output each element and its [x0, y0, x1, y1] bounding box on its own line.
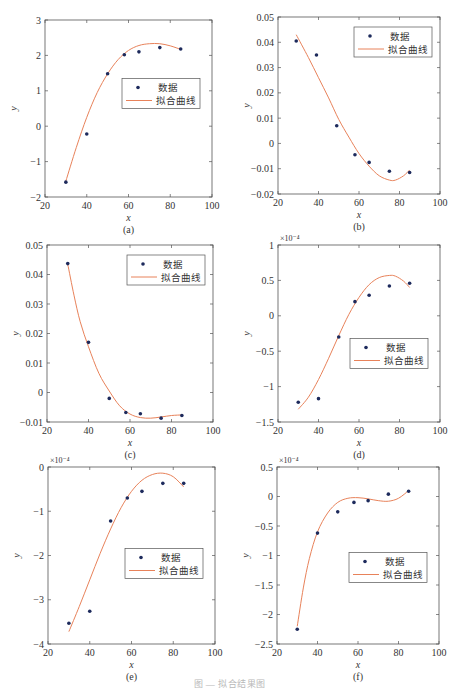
data-point	[161, 482, 165, 486]
x-tick-label: 40	[84, 425, 94, 436]
data-point	[158, 46, 162, 50]
y-axis-label: y	[11, 553, 22, 559]
x-tick-label: 80	[165, 200, 175, 211]
data-point	[180, 414, 184, 418]
data-point	[85, 132, 89, 136]
y-tick-label: 0	[269, 138, 274, 149]
x-tick-label: 80	[168, 647, 178, 658]
legend: 数据拟合曲线	[349, 553, 427, 583]
data-point	[179, 47, 183, 51]
data-point	[88, 609, 92, 613]
figure-caption: 图 — 拟合结果图	[0, 677, 459, 690]
y-tick-label: 0.03	[257, 62, 275, 73]
y-tick-label: −1	[30, 156, 41, 167]
legend: 数据拟合曲线	[350, 339, 428, 369]
y-tick-label: −0.01	[20, 417, 43, 428]
subplot-f: 20406080100−2.5−2−1.5−1−0.500.5×10⁻⁴xy(f…	[232, 453, 449, 684]
legend-marker-icon	[363, 560, 367, 564]
legend-marker-icon	[136, 86, 140, 90]
axis-multiplier: ×10⁻⁴	[279, 456, 299, 465]
x-tick-label: 40	[82, 200, 92, 211]
data-point	[388, 169, 392, 173]
x-tick-label: 40	[313, 647, 323, 658]
plot-frame	[278, 245, 440, 422]
legend: 数据拟合曲线	[122, 79, 200, 109]
y-tick-label: −0.02	[251, 189, 274, 200]
fit-curve	[66, 43, 181, 181]
y-tick-label: −4	[33, 639, 44, 650]
x-tick-label: 100	[206, 425, 221, 436]
y-tick-label: −1	[33, 506, 44, 517]
y-tick-label: −2	[262, 609, 273, 620]
y-tick-label: −0.01	[251, 163, 274, 174]
data-point	[352, 501, 356, 505]
data-point	[387, 492, 391, 496]
y-axis-label: y	[240, 553, 251, 559]
legend-label-data: 数据	[158, 82, 178, 93]
legend-label-fit: 拟合曲线	[159, 565, 199, 576]
data-point	[408, 281, 412, 285]
x-tick-label: 60	[124, 200, 134, 211]
y-tick-label: −2	[30, 192, 41, 203]
data-point	[388, 284, 392, 288]
data-point	[123, 53, 127, 57]
y-tick-label: −2.5	[255, 639, 273, 650]
y-tick-label: −0.5	[256, 346, 274, 357]
data-point	[294, 39, 298, 43]
legend: 数据拟合曲线	[125, 549, 203, 579]
y-axis-label: y	[10, 331, 21, 337]
y-tick-label: 0	[268, 491, 273, 502]
data-point	[182, 482, 186, 486]
x-tick-label: 80	[167, 425, 177, 436]
data-point	[366, 499, 370, 503]
y-tick-label: 0.04	[257, 37, 275, 48]
data-point	[64, 180, 68, 184]
y-axis-label: y	[8, 106, 19, 112]
legend-label-fit: 拟合曲线	[384, 355, 424, 366]
y-tick-label: 2	[36, 50, 41, 61]
y-tick-label: 0	[38, 387, 43, 398]
y-tick-label: 0.5	[261, 462, 274, 473]
legend-marker-icon	[364, 346, 368, 350]
y-tick-label: 1	[269, 240, 274, 251]
legend-marker-icon	[368, 34, 372, 38]
subplot-d: 20406080100−1.5−1−0.500.51×10⁻⁴xy(d)数据拟合…	[233, 231, 450, 462]
x-tick-label: 100	[208, 647, 223, 658]
data-point	[66, 262, 70, 266]
x-tick-label: 60	[353, 647, 363, 658]
y-tick-label: −1.5	[255, 580, 273, 591]
x-axis-label: x	[355, 659, 361, 670]
data-point	[67, 621, 71, 625]
x-tick-label: 20	[43, 647, 53, 658]
axis-multiplier: ×10⁻⁴	[280, 234, 300, 243]
data-point	[335, 124, 339, 128]
x-tick-label: 60	[354, 425, 364, 436]
y-tick-label: −1	[263, 381, 274, 392]
x-tick-label: 40	[314, 425, 324, 436]
y-axis-label: y	[241, 331, 252, 337]
data-point	[137, 50, 141, 54]
y-tick-label: 0.02	[257, 87, 275, 98]
x-tick-label: 60	[127, 647, 137, 658]
y-tick-label: 3	[36, 15, 41, 26]
x-tick-label: 60	[354, 197, 364, 208]
x-tick-label: 100	[205, 200, 220, 211]
y-axis-label: y	[241, 103, 252, 109]
data-point	[367, 161, 371, 165]
y-tick-label: 0.02	[26, 328, 44, 339]
x-tick-label: 100	[432, 647, 447, 658]
y-tick-label: 0	[36, 121, 41, 132]
x-tick-label: 20	[40, 200, 50, 211]
y-tick-label: −3	[33, 594, 44, 605]
legend-label-fit: 拟合曲线	[156, 95, 196, 106]
legend-label-fit: 拟合曲线	[388, 44, 428, 55]
data-point	[353, 153, 357, 157]
x-tick-label: 20	[42, 425, 52, 436]
y-tick-label: −1	[262, 550, 273, 561]
legend-marker-icon	[139, 556, 143, 560]
data-point	[337, 335, 341, 339]
x-tick-label: 20	[272, 647, 282, 658]
legend-label-data: 数据	[385, 556, 405, 567]
x-tick-label: 80	[395, 425, 405, 436]
x-axis-label: x	[125, 212, 131, 223]
